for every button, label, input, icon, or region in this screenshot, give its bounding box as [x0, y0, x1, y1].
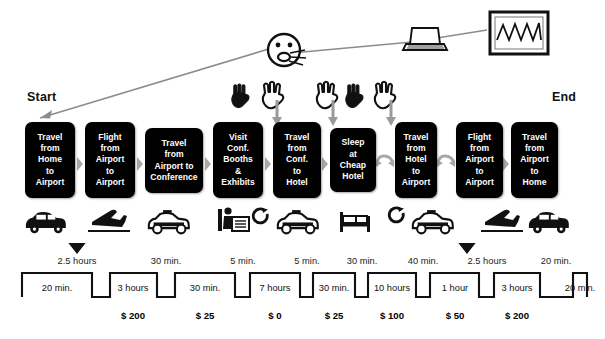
process-box-6[interactable]: Sleep at Cheap Hotel — [330, 128, 376, 192]
taxi-icon — [278, 210, 318, 233]
gap-label-3: 5 min. — [230, 256, 255, 266]
process-box-1-label: Travel from Home to Airport — [36, 132, 65, 189]
airplane-takeoff-icon — [481, 210, 523, 232]
cost-label-3: $ 25 — [196, 310, 215, 321]
car-icon — [26, 212, 66, 233]
process-box-9[interactable]: Travel from Airport to Home — [511, 122, 558, 198]
process-box-2-label: Flight from Airport to Airport — [96, 132, 125, 189]
process-box-7[interactable]: Travel from Hotel to Airport — [395, 122, 437, 198]
triangle-marker — [66, 243, 88, 254]
process-box-2[interactable]: Flight from Airport to Airport — [85, 122, 135, 198]
cost-label-2: $ 200 — [121, 310, 145, 321]
taxi-icon — [413, 210, 453, 233]
process-box-6-label: Sleep at Cheap Hotel — [340, 137, 366, 182]
process-box-4-label: Visit Conf. Booths & Exhibits — [221, 132, 254, 189]
gap-label-7: 2.5 hours — [468, 256, 507, 266]
process-box-3[interactable]: Travel from Airport to Conference — [145, 128, 203, 193]
airplane-takeoff-icon — [88, 210, 130, 232]
step-duration-6: 10 hours — [374, 283, 410, 293]
taxi-icon — [149, 210, 189, 233]
car-icon — [529, 212, 569, 233]
step-duration-8: 3 hours — [501, 283, 532, 293]
diagram-canvas: Start End Travel from Home to Airport Fl… — [0, 0, 605, 339]
step-duration-7: 1 hour — [442, 283, 468, 293]
process-box-4[interactable]: Visit Conf. Booths & Exhibits — [213, 122, 263, 198]
step-duration-1: 20 min. — [42, 283, 73, 293]
process-box-5[interactable]: Travel from Conf. to Hotel — [273, 122, 321, 198]
gap-label-2: 30 min. — [151, 256, 182, 266]
bed-icon — [340, 212, 370, 232]
gap-label-6: 40 min. — [408, 256, 439, 266]
cost-label-6: $ 100 — [380, 310, 404, 321]
gap-label-5: 30 min. — [347, 256, 378, 266]
transport-icon-row — [0, 205, 605, 241]
process-box-5-label: Travel from Conf. to Hotel — [285, 132, 310, 189]
step-duration-4: 7 hours — [259, 283, 290, 293]
cost-label-4: $ 0 — [268, 310, 281, 321]
process-box-9-label: Travel from Airport to Home — [520, 132, 549, 189]
process-box-7-label: Travel from Hotel to Airport — [402, 132, 431, 189]
triangle-marker — [456, 243, 478, 254]
circular-arrow-icon — [253, 208, 268, 223]
cost-label-7: $ 50 — [446, 310, 465, 321]
step-duration-5: 30 min. — [319, 283, 350, 293]
gap-label-4: 5 min. — [294, 256, 319, 266]
process-box-8-label: Flight from Airport to Airport — [465, 132, 494, 189]
cost-label-8: $ 200 — [505, 310, 529, 321]
process-box-3-label: Travel from Airport to Conference — [150, 138, 197, 183]
process-box-1[interactable]: Travel from Home to Airport — [25, 122, 75, 198]
gap-label-8: 20 min. — [541, 256, 572, 266]
person-badge-icon — [218, 207, 249, 231]
step-duration-2: 3 hours — [117, 283, 148, 293]
cost-label-5: $ 25 — [325, 310, 344, 321]
process-box-8[interactable]: Flight from Airport to Airport — [456, 122, 503, 198]
circular-arrow-icon — [389, 207, 404, 222]
step-duration-3: 30 min. — [190, 283, 221, 293]
gap-label-1: 2.5 hours — [58, 256, 97, 266]
step-duration-9: 20 min. — [565, 283, 596, 293]
